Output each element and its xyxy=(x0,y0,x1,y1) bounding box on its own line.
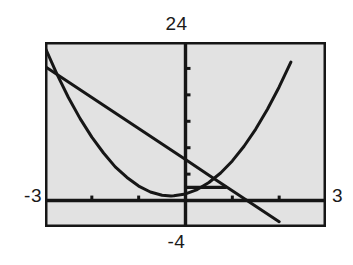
calculator-screen xyxy=(45,42,326,227)
x-min-label: -3 xyxy=(8,186,42,205)
y-max-label: 24 xyxy=(0,14,353,33)
graph-figure: 24 -4 -3 3 xyxy=(0,0,353,265)
plot-svg xyxy=(45,42,326,227)
y-min-label: -4 xyxy=(0,232,353,251)
x-max-label: 3 xyxy=(332,186,352,205)
